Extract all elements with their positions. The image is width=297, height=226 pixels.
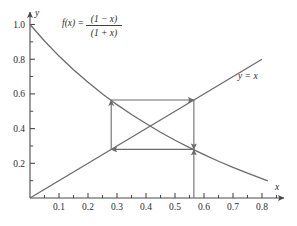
x-tick-label: 0.3 xyxy=(111,202,123,212)
curves-group xyxy=(30,25,268,199)
y-axis-tick-labels: 0.20.40.60.81.0 xyxy=(13,20,25,169)
x-axis-ticks xyxy=(45,193,277,198)
f-of-x-label-lhs: f(x) = xyxy=(62,18,84,29)
y-tick-label: 0.8 xyxy=(13,55,25,65)
x-tick-label: 0.5 xyxy=(169,202,181,212)
y-tick-label: 0.2 xyxy=(13,159,25,169)
y-tick-label: 1.0 xyxy=(13,20,25,30)
x-tick-label: 0.1 xyxy=(53,202,65,212)
f-of-x-label-numerator: (1 − x) xyxy=(91,14,117,25)
f-of-x-curve xyxy=(30,25,268,181)
plot-canvas: 0.10.20.30.40.50.60.70.8 0.20.40.60.81.0… xyxy=(0,0,297,226)
y-tick-label: 0.4 xyxy=(13,124,25,134)
cobweb-segments xyxy=(111,100,194,198)
curve-labels-group: f(x) = (1 − x) (1 + x) y = x xyxy=(62,14,258,81)
axes-group: 0.10.20.30.40.50.60.70.8 0.20.40.60.81.0… xyxy=(13,8,284,212)
x-axis-tick-labels: 0.10.20.30.40.50.60.70.8 xyxy=(53,202,268,212)
y-equals-x-line xyxy=(30,59,262,198)
y-equals-x-label: y = x xyxy=(237,71,258,81)
x-tick-label: 0.2 xyxy=(82,202,94,212)
x-axis-label: x xyxy=(274,182,280,192)
x-tick-label: 0.4 xyxy=(140,202,152,212)
x-tick-label: 0.8 xyxy=(256,202,268,212)
y-axis-label: y xyxy=(34,8,40,18)
cobweb-group xyxy=(111,100,194,198)
x-tick-label: 0.7 xyxy=(227,202,239,212)
f-of-x-label-denominator: (1 + x) xyxy=(91,28,117,39)
y-tick-label: 0.6 xyxy=(13,89,25,99)
x-tick-label: 0.6 xyxy=(198,202,210,212)
cobweb-plot-figure: 0.10.20.30.40.50.60.70.8 0.20.40.60.81.0… xyxy=(0,0,297,226)
y-axis-ticks xyxy=(30,25,35,181)
